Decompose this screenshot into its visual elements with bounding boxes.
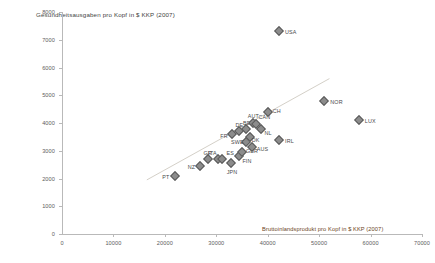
- data-point-nz[interactable]: [195, 161, 205, 171]
- y-tick-label: 2000: [29, 176, 55, 182]
- y-tick: [59, 151, 62, 152]
- x-tick: [319, 234, 320, 237]
- data-point-lux[interactable]: [354, 115, 364, 125]
- y-tick: [59, 234, 62, 235]
- data-point-label-nor: NOR: [330, 99, 342, 105]
- y-tick: [59, 206, 62, 207]
- data-point-usa[interactable]: [274, 26, 284, 36]
- y-tick: [59, 12, 62, 13]
- x-tick-label: 70000: [402, 240, 435, 246]
- data-point-pt[interactable]: [170, 171, 180, 181]
- y-axis-line: [62, 12, 63, 235]
- data-point-label-swe: SWE: [231, 139, 244, 145]
- y-tick-label: 5000: [29, 92, 55, 98]
- data-point-jpn[interactable]: [226, 158, 236, 168]
- data-point-label-usa: USA: [285, 29, 297, 35]
- x-tick: [113, 234, 114, 237]
- data-point-label-fr: FR: [220, 133, 228, 139]
- data-point-label-aus: AUS: [257, 146, 269, 152]
- y-tick-label: 4000: [29, 120, 55, 126]
- data-point-label-jpn: JPN: [227, 169, 238, 175]
- y-tick-label: 6000: [29, 65, 55, 71]
- data-point-label-es: ES: [226, 150, 234, 156]
- x-tick-label: 50000: [299, 240, 339, 246]
- y-tick-label: 3000: [29, 148, 55, 154]
- data-point-label-pt: PT: [162, 174, 169, 180]
- data-point-label-nz: NZ: [188, 164, 196, 170]
- y-tick-label: 8000: [29, 9, 55, 15]
- data-point-label-aut: AUT: [248, 113, 259, 119]
- x-tick: [216, 234, 217, 237]
- data-point-label-lux: LUX: [365, 118, 376, 124]
- y-tick: [59, 123, 62, 124]
- x-tick-label: 60000: [351, 240, 391, 246]
- y-tick-label: 0: [29, 231, 55, 237]
- y-tick: [59, 68, 62, 69]
- x-tick-label: 30000: [196, 240, 236, 246]
- y-tick-label: 7000: [29, 37, 55, 43]
- y-tick: [59, 179, 62, 180]
- x-axis-title: Bruttoinlandsprodukt pro Kopf in $ KKP (…: [262, 226, 383, 232]
- data-point-irl[interactable]: [274, 135, 284, 145]
- data-point-nor[interactable]: [319, 96, 329, 106]
- data-point-label-irl: IRL: [285, 138, 294, 144]
- x-tick-label: 10000: [93, 240, 133, 246]
- x-tick: [371, 234, 372, 237]
- x-tick: [422, 234, 423, 237]
- data-point-label-fin: FIN: [242, 158, 251, 164]
- data-point-label-ita: ITA: [208, 150, 216, 156]
- x-tick-label: 20000: [145, 240, 185, 246]
- x-tick: [165, 234, 166, 237]
- x-tick-label: 0: [42, 240, 82, 246]
- y-tick: [59, 40, 62, 41]
- data-point-label-nl: NL: [265, 130, 272, 136]
- chart-title: Gesundheitsausgaben pro Kopf in $ KKP (2…: [36, 11, 175, 18]
- x-tick-label: 40000: [248, 240, 288, 246]
- y-tick: [59, 95, 62, 96]
- x-axis-line: [62, 234, 422, 235]
- data-point-label-ch: CH: [273, 108, 281, 114]
- x-tick: [268, 234, 269, 237]
- y-tick-label: 1000: [29, 203, 55, 209]
